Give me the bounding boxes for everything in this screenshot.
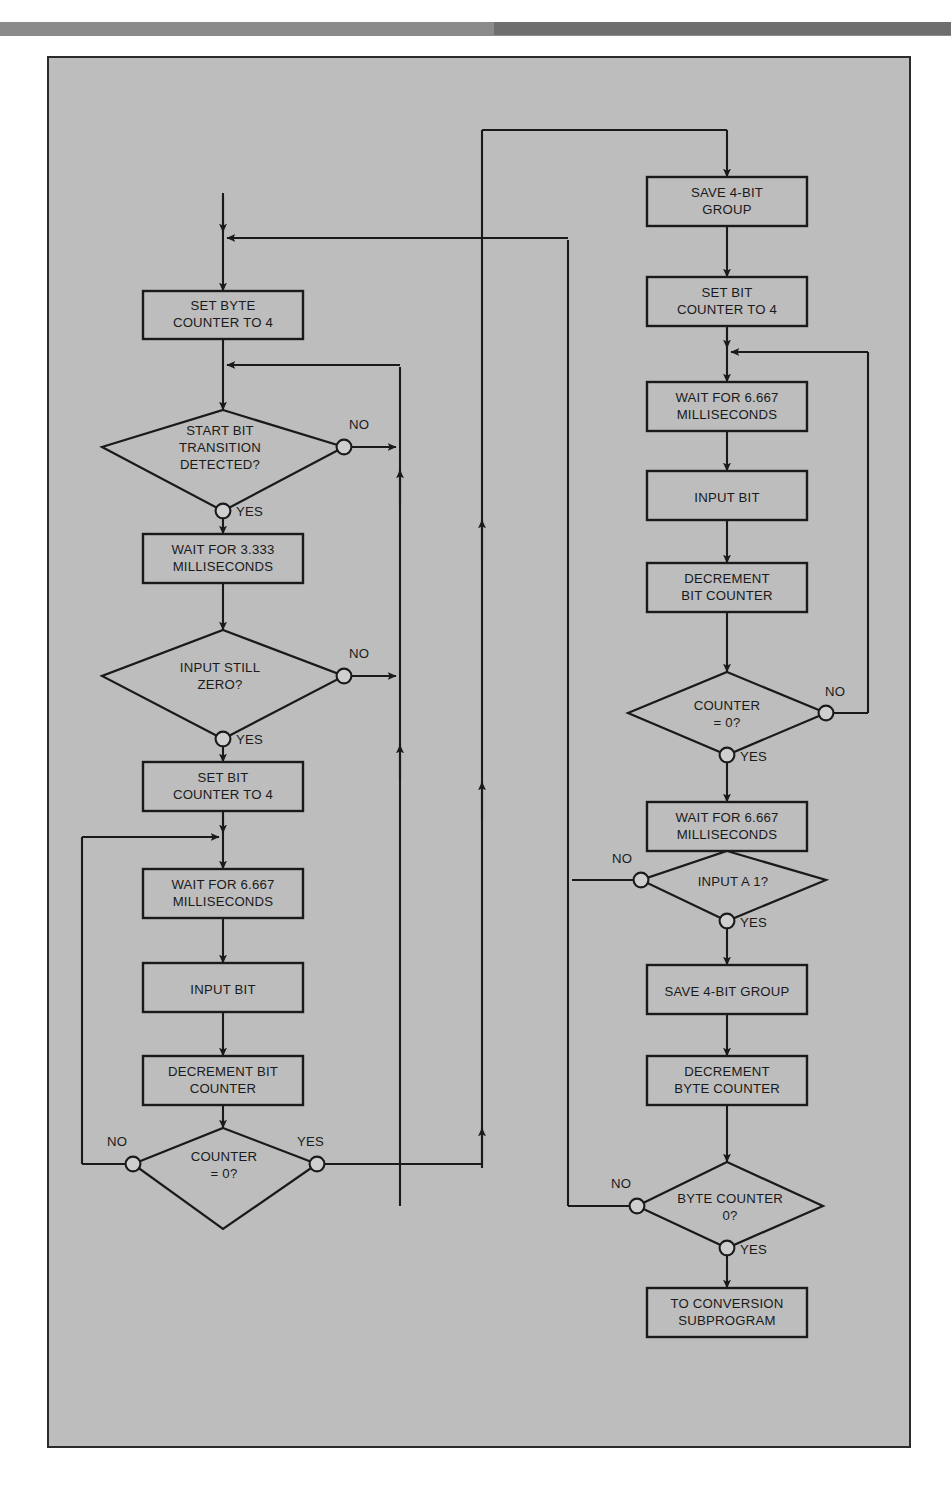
- node-label: MILLISECONDS: [677, 827, 778, 842]
- node-label: COUNTER TO 4: [173, 315, 273, 330]
- node-label: BIT COUNTER: [681, 588, 772, 603]
- node-wait-3333: WAIT FOR 3.333 MILLISECONDS: [143, 534, 303, 583]
- junction-dot: [216, 732, 231, 747]
- junction-dot: [216, 504, 231, 519]
- node-label: DECREMENT: [684, 1064, 769, 1079]
- node-label: MILLISECONDS: [173, 894, 274, 909]
- node-decrement-bit-counter-left: DECREMENT BIT COUNTER: [143, 1056, 303, 1105]
- node-to-conversion-subprogram: TO CONVERSION SUBPROGRAM: [647, 1288, 807, 1337]
- node-label: COUNTER: [191, 1149, 258, 1164]
- node-label: INPUT BIT: [694, 490, 759, 505]
- node-label: MILLISECONDS: [677, 407, 778, 422]
- node-label: SUBPROGRAM: [678, 1313, 775, 1328]
- node-label: = 0?: [211, 1166, 238, 1181]
- node-label: TO CONVERSION: [671, 1296, 784, 1311]
- node-label: INPUT A 1?: [698, 874, 769, 889]
- node-label: COUNTER: [190, 1081, 257, 1096]
- junction-dot: [337, 440, 352, 455]
- branch-label-no: NO: [825, 684, 845, 699]
- node-counter-zero-left: COUNTER = 0? NO YES: [107, 1128, 324, 1229]
- node-label: DETECTED?: [180, 457, 260, 472]
- junction-dot: [720, 1241, 735, 1256]
- node-set-bit-counter-right: SET BIT COUNTER TO 4: [647, 277, 807, 326]
- figure-page: SET BYTE COUNTER TO 4 START BIT TRANSITI…: [0, 0, 951, 1502]
- node-label: SET BIT: [702, 285, 753, 300]
- node-label: GROUP: [702, 202, 751, 217]
- branch-label-no: NO: [349, 646, 369, 661]
- node-label: COUNTER: [694, 698, 761, 713]
- junction-dot: [720, 914, 735, 929]
- node-byte-counter-zero: BYTE COUNTER 0? NO YES: [611, 1162, 823, 1257]
- node-label: COUNTER TO 4: [677, 302, 777, 317]
- node-label: SET BYTE: [190, 298, 255, 313]
- node-label: WAIT FOR 3.333: [171, 542, 274, 557]
- junction-dot: [630, 1199, 645, 1214]
- branch-label-no: NO: [611, 1176, 631, 1191]
- node-label: INPUT BIT: [190, 982, 255, 997]
- junction-dot: [634, 873, 649, 888]
- branch-label-yes: YES: [236, 504, 263, 519]
- node-wait-6667-right-a: WAIT FOR 6.667 MILLISECONDS: [647, 382, 807, 431]
- junction-dot: [337, 669, 352, 684]
- node-start-bit-transition: START BIT TRANSITION DETECTED? NO YES: [102, 410, 369, 519]
- node-label: SAVE 4-BIT GROUP: [664, 984, 789, 999]
- node-input-bit-right: INPUT BIT: [647, 471, 807, 520]
- junction-dot: [819, 706, 834, 721]
- node-label: TRANSITION: [179, 440, 261, 455]
- branch-label-yes: YES: [297, 1134, 324, 1149]
- node-decrement-bit-counter-right: DECREMENT BIT COUNTER: [647, 563, 807, 612]
- node-decrement-byte-counter: DECREMENT BYTE COUNTER: [647, 1056, 807, 1105]
- branch-label-yes: YES: [236, 732, 263, 747]
- node-save-4bit-group-top: SAVE 4-BIT GROUP: [647, 177, 807, 226]
- junction-dot: [126, 1157, 141, 1172]
- node-label: DECREMENT BIT: [168, 1064, 278, 1079]
- node-label: SET BIT: [198, 770, 249, 785]
- node-label: BYTE COUNTER: [677, 1191, 783, 1206]
- node-counter-zero-right: COUNTER = 0? NO YES: [628, 672, 845, 764]
- branch-label-no: NO: [349, 417, 369, 432]
- node-set-byte-counter: SET BYTE COUNTER TO 4: [143, 291, 303, 339]
- node-label: DECREMENT: [684, 571, 769, 586]
- node-label: 0?: [722, 1208, 737, 1223]
- node-label: SAVE 4-BIT: [691, 185, 763, 200]
- node-input-a-one: INPUT A 1? NO YES: [612, 851, 826, 930]
- junction-dot: [720, 748, 735, 763]
- node-label: WAIT FOR 6.667: [171, 877, 274, 892]
- node-input-still-zero: INPUT STILL ZERO? NO YES: [102, 630, 369, 747]
- node-label: ZERO?: [198, 677, 243, 692]
- node-label: = 0?: [714, 715, 741, 730]
- branch-label-yes: YES: [740, 749, 767, 764]
- node-label: INPUT STILL: [180, 660, 260, 675]
- node-save-4bit-group-bottom: SAVE 4-BIT GROUP: [647, 965, 807, 1014]
- branch-label-no: NO: [107, 1134, 127, 1149]
- node-label: START BIT: [186, 423, 254, 438]
- node-label: COUNTER TO 4: [173, 787, 273, 802]
- branch-label-yes: YES: [740, 915, 767, 930]
- node-input-bit-left: INPUT BIT: [143, 963, 303, 1012]
- node-label: WAIT FOR 6.667: [675, 390, 778, 405]
- node-label: WAIT FOR 6.667: [675, 810, 778, 825]
- node-wait-6667-right-b: WAIT FOR 6.667 MILLISECONDS: [647, 802, 807, 851]
- node-label: MILLISECONDS: [173, 559, 274, 574]
- node-set-bit-counter: SET BIT COUNTER TO 4: [143, 762, 303, 811]
- node-label: BYTE COUNTER: [674, 1081, 780, 1096]
- node-wait-6667-left: WAIT FOR 6.667 MILLISECONDS: [143, 869, 303, 918]
- branch-label-no: NO: [612, 851, 632, 866]
- flowchart-canvas: SET BYTE COUNTER TO 4 START BIT TRANSITI…: [0, 0, 951, 1502]
- junction-dot: [310, 1157, 325, 1172]
- branch-label-yes: YES: [740, 1242, 767, 1257]
